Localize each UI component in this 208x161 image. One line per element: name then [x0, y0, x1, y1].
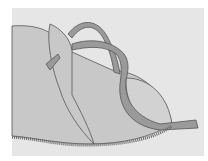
- illustration-frame: [0, 0, 208, 161]
- shoe-illustration: [0, 0, 208, 161]
